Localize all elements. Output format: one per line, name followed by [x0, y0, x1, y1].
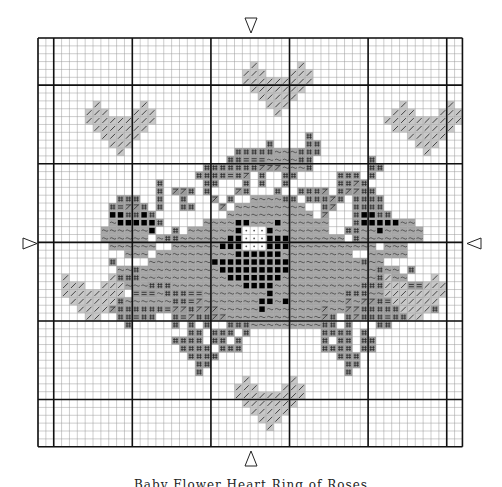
stitch-cell — [376, 203, 384, 211]
stitch-cell — [376, 313, 384, 321]
stitch-cell — [376, 164, 384, 172]
stitch-cell — [132, 313, 140, 321]
stitch-cell — [203, 187, 211, 195]
stitch-cell — [242, 164, 250, 172]
stitch-cell — [305, 156, 313, 164]
cross-stitch-chart — [0, 0, 502, 487]
stitch-cell — [219, 172, 227, 180]
dark-stitch-icon — [212, 259, 217, 264]
stitch-cell — [156, 187, 164, 195]
dark-stitch-icon — [228, 259, 233, 264]
stitch-cell — [156, 195, 164, 203]
stitch-cell — [156, 282, 164, 290]
dark-stitch-icon — [244, 275, 249, 280]
stitch-cell — [266, 148, 274, 156]
dark-stitch-icon — [251, 251, 256, 256]
stitch-cell — [329, 329, 337, 337]
dark-stitch-icon — [385, 220, 390, 225]
chart-caption: Baby Flower Heart Ring of Roses — [0, 477, 502, 487]
stitch-cell — [376, 211, 384, 219]
stitch-cell — [140, 203, 148, 211]
dark-stitch-icon — [236, 251, 241, 256]
stitch-cell — [140, 290, 148, 298]
dark-stitch-icon — [267, 275, 272, 280]
dark-stitch-icon — [118, 220, 123, 225]
highlight-dot-icon — [245, 238, 247, 240]
dark-stitch-icon — [236, 267, 241, 272]
stitch-cell — [305, 140, 313, 148]
stitch-cell — [117, 195, 125, 203]
stitch-cell — [345, 352, 353, 360]
stitch-cell — [384, 297, 392, 305]
dark-stitch-icon — [220, 267, 225, 272]
dark-stitch-icon — [283, 299, 288, 304]
stitch-cell — [242, 179, 250, 187]
dark-stitch-icon — [251, 275, 256, 280]
stitch-cell — [172, 227, 180, 235]
stitch-cell — [376, 266, 384, 274]
right-center-arrow-icon — [467, 238, 481, 249]
stitch-cell — [156, 203, 164, 211]
dark-stitch-icon — [141, 220, 146, 225]
stitch-cell — [290, 172, 298, 180]
stitch-cell — [368, 156, 376, 164]
stitch-cell — [242, 329, 250, 337]
stitch-cell — [258, 179, 266, 187]
stitch-cell — [337, 179, 345, 187]
dark-stitch-icon — [283, 267, 288, 272]
stitch-cell — [132, 305, 140, 313]
stitch-cell — [132, 211, 140, 219]
dark-stitch-icon — [259, 259, 264, 264]
dark-stitch-icon — [236, 236, 241, 241]
stitch-cell — [258, 148, 266, 156]
stitch-cell — [164, 282, 172, 290]
stitch-cell — [266, 140, 274, 148]
dark-stitch-icon — [244, 283, 249, 288]
stitch-cell — [352, 203, 360, 211]
stitch-cell — [203, 179, 211, 187]
stitch-cell — [352, 219, 360, 227]
stitch-cell — [124, 313, 132, 321]
stitch-cell — [187, 290, 195, 298]
highlight-dot-icon — [261, 245, 263, 247]
dark-stitch-icon — [134, 220, 139, 225]
stitch-cell — [203, 352, 211, 360]
dark-stitch-icon — [377, 228, 382, 233]
dark-stitch-icon — [126, 220, 131, 225]
stitch-cell — [345, 179, 353, 187]
top-center-arrow-icon — [245, 18, 257, 33]
dark-stitch-icon — [283, 259, 288, 264]
stitch-cell — [305, 148, 313, 156]
dark-stitch-icon — [267, 283, 272, 288]
stitch-cell — [227, 345, 235, 353]
stitch-cell — [360, 305, 368, 313]
stitch-cell — [140, 305, 148, 313]
stitch-cell — [132, 290, 140, 298]
stitch-cell — [352, 360, 360, 368]
dark-stitch-icon — [236, 220, 241, 225]
stitch-cell — [227, 164, 235, 172]
stitch-cell — [211, 164, 219, 172]
dark-stitch-icon — [267, 259, 272, 264]
dark-stitch-icon — [361, 212, 366, 217]
stitch-cell — [195, 329, 203, 337]
stitch-cell — [117, 274, 125, 282]
stitch-cell — [384, 313, 392, 321]
stitch-cell — [132, 274, 140, 282]
dark-stitch-icon — [110, 212, 115, 217]
bottom-center-arrow-icon — [245, 451, 257, 466]
stitch-cell — [368, 305, 376, 313]
stitch-cell — [250, 148, 258, 156]
stitch-cell — [313, 195, 321, 203]
stitch-cell — [352, 227, 360, 235]
stitch-cell — [321, 337, 329, 345]
stitch-cell — [313, 187, 321, 195]
stitch-cell — [172, 235, 180, 243]
stitch-cell — [321, 329, 329, 337]
stitch-cell — [360, 345, 368, 353]
stitch-cell — [337, 352, 345, 360]
stitch-cell — [164, 290, 172, 298]
stitch-cell — [187, 352, 195, 360]
stitch-cell — [345, 313, 353, 321]
stitch-cell — [345, 360, 353, 368]
